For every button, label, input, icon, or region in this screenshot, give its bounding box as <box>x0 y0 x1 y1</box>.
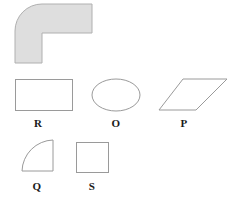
quarter-circle-q <box>22 140 53 171</box>
shape-composition-figure: R O P Q S <box>0 0 239 203</box>
rectangle-r <box>16 80 73 111</box>
figure-canvas <box>0 0 239 203</box>
parallelogram-p <box>159 79 227 110</box>
square-s <box>77 143 109 173</box>
label-parallelogram-p: P <box>181 118 188 129</box>
label-ellipse-o: O <box>112 118 121 129</box>
label-square-s: S <box>89 181 95 192</box>
elbow-shape <box>15 4 92 63</box>
ellipse-o <box>92 79 140 111</box>
label-quarter-circle-q: Q <box>33 181 42 192</box>
label-rectangle-r: R <box>34 118 42 129</box>
